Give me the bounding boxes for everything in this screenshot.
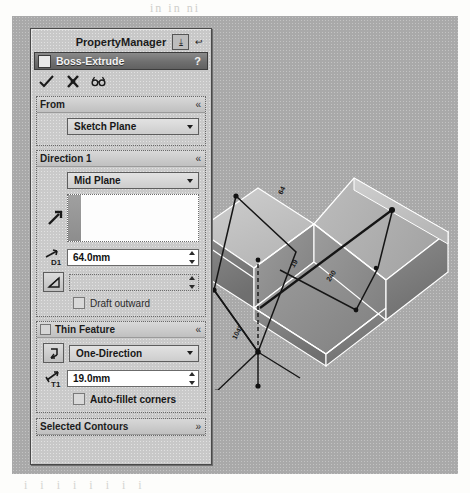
thin-feature-checkbox[interactable] [40,324,51,335]
direction-reference-listbox[interactable] [67,194,199,242]
reverse-thin-direction-icon[interactable] [43,343,64,363]
draft-outward-label: Draft outward [90,298,150,309]
reverse-direction-icon[interactable] [43,209,67,227]
svg-text:D1: D1 [51,258,62,267]
scan-bleed-text-top: in in ni [150,1,200,16]
group-selected-contours: Selected Contours » [36,418,206,436]
help-button[interactable]: ? [194,55,204,67]
property-manager-panel: PropertyManager ⤓ ↩ Boss-Extrude ? [30,28,212,465]
group-direction-1: Direction 1 « Mid Plane [36,150,206,317]
depth-input[interactable]: 64.0mm [67,249,199,266]
scan-bleed-text-bottom: i i i i i i i i [24,478,147,493]
start-condition-value: Sketch Plane [74,121,136,132]
draft-angle-icon[interactable] [43,272,64,292]
thickness-stepper[interactable] [187,372,196,385]
group-thin-feature-header[interactable]: Thin Feature « [37,322,205,338]
page-title: PropertyManager [76,36,166,48]
dimension-angle-label: 104° [231,324,244,340]
direction-reference-field[interactable] [81,195,198,241]
start-condition-select[interactable]: Sketch Plane [67,118,199,135]
group-direction-1-body: Mid Plane [37,167,205,309]
group-direction-1-header[interactable]: Direction 1 « [37,151,205,167]
group-thin-feature-title: Thin Feature [55,324,115,335]
direction-reference-row [43,194,199,242]
thickness-t1-icon: T1 [43,368,67,388]
draft-angle-input[interactable] [69,274,199,291]
end-condition-select[interactable]: Mid Plane [67,172,199,189]
graphics-viewport[interactable]: 64 240 104° 19 [196,140,458,390]
chevron-down-icon[interactable] [183,119,196,134]
depth-row: D1 64.0mm [43,247,199,267]
chevron-up-icon[interactable]: « [195,98,201,111]
group-from-title: From [40,99,65,110]
cancel-button[interactable] [65,74,80,89]
scanned-page: in in ni i i i i i i i i [0,0,470,493]
start-condition-row: Sketch Plane [43,118,199,135]
group-direction-1-title: Direction 1 [40,153,92,164]
ok-button[interactable] [39,74,54,89]
thin-type-row: One-Direction [43,343,199,363]
chevron-up-icon[interactable]: « [195,152,201,165]
thickness-value: 19.0mm [73,373,110,384]
end-condition-row: Mid Plane [43,172,199,189]
group-from: From « Sketch Plane [36,96,206,146]
depth-stepper[interactable] [187,251,196,264]
auto-fillet-row[interactable]: Auto-fillet corners [43,393,199,405]
group-selected-contours-title: Selected Contours [40,421,128,432]
auto-fillet-label: Auto-fillet corners [90,394,176,405]
dock-panel-icon[interactable]: ⤓ [172,34,189,50]
depth-d1-icon: D1 [43,247,67,267]
thin-type-select[interactable]: One-Direction [69,345,199,362]
pin-panel-icon[interactable]: ↩ [192,35,206,49]
property-manager-header: PropertyManager ⤓ ↩ [34,32,208,51]
confirm-toolbar [34,70,208,92]
auto-fillet-checkbox[interactable] [73,393,85,405]
panel-header-buttons: ⤓ ↩ [172,34,206,50]
draft-row [43,272,199,292]
thin-type-value: One-Direction [76,348,142,359]
boss-extrude-icon [38,55,51,68]
chevron-down-icon[interactable]: » [195,420,201,433]
svg-text:T1: T1 [51,380,61,388]
group-thin-feature: Thin Feature « One-Direction [36,321,206,413]
group-from-body: Sketch Plane [37,113,205,135]
thickness-input[interactable]: 19.0mm [67,370,199,387]
depth-value: 64.0mm [73,252,110,263]
group-selected-contours-header[interactable]: Selected Contours » [37,419,205,435]
thickness-row: T1 19.0mm [43,368,199,388]
group-from-header[interactable]: From « [37,97,205,113]
group-thin-feature-body: One-Direction T1 19.0mm [37,338,205,405]
detailed-preview-button[interactable] [91,74,106,89]
chevron-down-icon[interactable] [183,346,196,361]
draft-outward-checkbox[interactable] [73,297,85,309]
chevron-up-icon[interactable]: « [195,323,201,336]
draft-angle-stepper[interactable] [187,276,196,289]
chevron-down-icon[interactable] [183,173,196,188]
selection-color-swatch [68,195,81,241]
dimension-depth-label: 64 [277,185,287,195]
end-condition-value: Mid Plane [74,175,121,186]
feature-title-bar: Boss-Extrude ? [34,52,208,70]
feature-name: Boss-Extrude [56,55,194,67]
draft-outward-row[interactable]: Draft outward [43,297,199,309]
